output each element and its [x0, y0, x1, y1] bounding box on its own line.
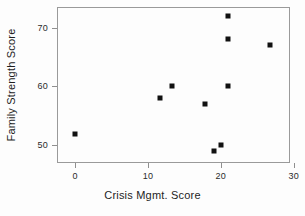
- x-axis-tick: [294, 163, 295, 168]
- data-point: [170, 84, 175, 89]
- x-axis-title: Crisis Mgmt. Score: [0, 189, 305, 201]
- data-point: [202, 102, 207, 107]
- x-axis-tick: [148, 163, 149, 168]
- x-axis-tick-label: 20: [216, 171, 226, 181]
- y-axis-title: Family Strength Score: [5, 28, 17, 141]
- y-axis-tick-label: 60: [29, 81, 48, 91]
- y-axis-title-container: Family Strength Score: [2, 0, 20, 170]
- x-axis-tick-label: 10: [143, 171, 153, 181]
- data-point: [218, 143, 223, 148]
- data-point: [211, 149, 216, 154]
- data-point: [268, 43, 273, 48]
- scatter-plot-figure: 0102030506070 Family Strength Score Cris…: [0, 0, 305, 216]
- x-axis-tick: [75, 163, 76, 168]
- data-point: [226, 84, 231, 89]
- data-point: [157, 96, 162, 101]
- y-axis-tick-label: 50: [29, 140, 48, 150]
- data-point: [226, 37, 231, 42]
- x-axis-tick: [221, 163, 222, 168]
- data-point: [226, 13, 231, 18]
- x-axis-tick-label: 0: [73, 171, 78, 181]
- x-axis-tick-label: 30: [288, 171, 298, 181]
- data-point: [73, 131, 78, 136]
- y-axis-tick-label: 70: [29, 23, 48, 33]
